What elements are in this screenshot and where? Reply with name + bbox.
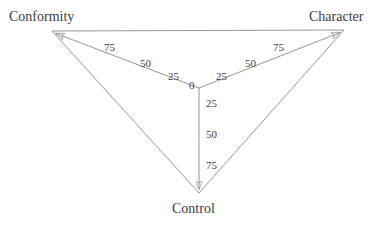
vertex-label-conformity: Conformity (9, 9, 74, 25)
tick-conformity-50: 50 (140, 57, 151, 69)
tick-conformity-25: 25 (168, 70, 179, 82)
edge-character-control (199, 30, 344, 193)
tick-conformity-75: 75 (104, 41, 115, 53)
ternary-diagram: Conformity Character Control 75 50 25 0 … (0, 0, 391, 230)
tick-control-25: 25 (206, 97, 217, 109)
vertex-label-character: Character (309, 9, 363, 25)
diagram-canvas (0, 0, 391, 230)
edge-conformity-character (52, 30, 344, 31)
tick-origin-0: 0 (189, 79, 195, 91)
vertex-label-control: Control (172, 201, 215, 217)
tick-character-25: 25 (216, 70, 227, 82)
tick-control-50: 50 (206, 128, 217, 140)
tick-control-75: 75 (206, 159, 217, 171)
edge-conformity-control (52, 31, 199, 193)
tick-character-50: 50 (245, 57, 256, 69)
tick-character-75: 75 (273, 41, 284, 53)
